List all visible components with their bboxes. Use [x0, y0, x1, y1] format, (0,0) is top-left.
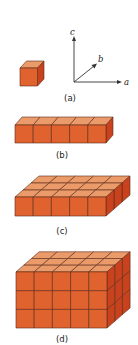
axis-a-arrowhead [117, 80, 122, 84]
cube-front-face [34, 272, 52, 291]
cube-front-face [15, 125, 33, 143]
panel-a-label: (a) [64, 93, 76, 103]
cube-front-face [52, 291, 70, 310]
cube-front-face [33, 125, 51, 143]
cube-front-face [89, 272, 107, 291]
axis-a-label: a [124, 77, 129, 87]
panel-a-unit-cell [20, 61, 44, 86]
cube-front-face [33, 197, 51, 216]
panel-b-label: (b) [56, 150, 68, 160]
axis-c-label: c [70, 27, 75, 37]
cube-front-face [70, 125, 88, 143]
cube-front-face [71, 291, 89, 310]
cube-front-face [20, 68, 38, 86]
axis-b [74, 66, 94, 82]
cube-front-face [71, 309, 89, 328]
panel-c-label: (c) [56, 226, 67, 236]
axis-b-label: b [98, 54, 103, 64]
cube-front-face [16, 309, 34, 328]
cube-front-face [51, 125, 69, 143]
crystal-lattice-diagram: c b a (a) (b) (c) (d) [0, 0, 138, 345]
cube-front-face [34, 291, 52, 310]
cube-front-face [34, 309, 52, 328]
cube-front-face [52, 309, 70, 328]
panel-d-label: (d) [56, 334, 68, 344]
axes-abc: c b a [70, 27, 129, 87]
cube-front-face [71, 272, 89, 291]
cube-front-face [88, 125, 106, 143]
cube-front-face [89, 291, 107, 310]
panel-c-layer [15, 176, 130, 216]
cube-front-face [16, 291, 34, 310]
cube-front-face [89, 309, 107, 328]
cube-front-face [16, 272, 34, 291]
cube-front-face [52, 272, 70, 291]
cube-front-face [70, 197, 88, 216]
cube-front-face [88, 197, 106, 216]
panel-d-block [16, 252, 130, 328]
cube-front-face [15, 197, 33, 216]
panel-b-row [15, 117, 113, 143]
cube-front-face [51, 197, 69, 216]
